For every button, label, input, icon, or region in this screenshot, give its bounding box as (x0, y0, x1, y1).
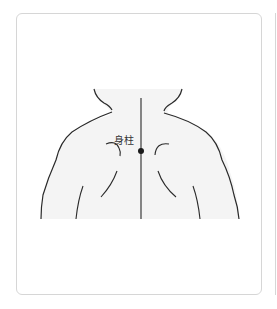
acupoint-label: 身柱 (114, 132, 133, 147)
shenzhu-acupoint-marker (138, 148, 144, 154)
back-anatomy-illustration (0, 0, 277, 309)
body-silhouette (41, 89, 239, 219)
